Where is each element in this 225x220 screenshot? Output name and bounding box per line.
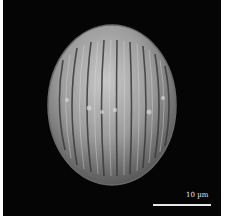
pollen-grain (3, 0, 221, 216)
scale-bar (153, 204, 211, 206)
scale-bar-label: 10 µm (186, 191, 208, 199)
micrograph-frame: 10 µm (3, 0, 221, 216)
